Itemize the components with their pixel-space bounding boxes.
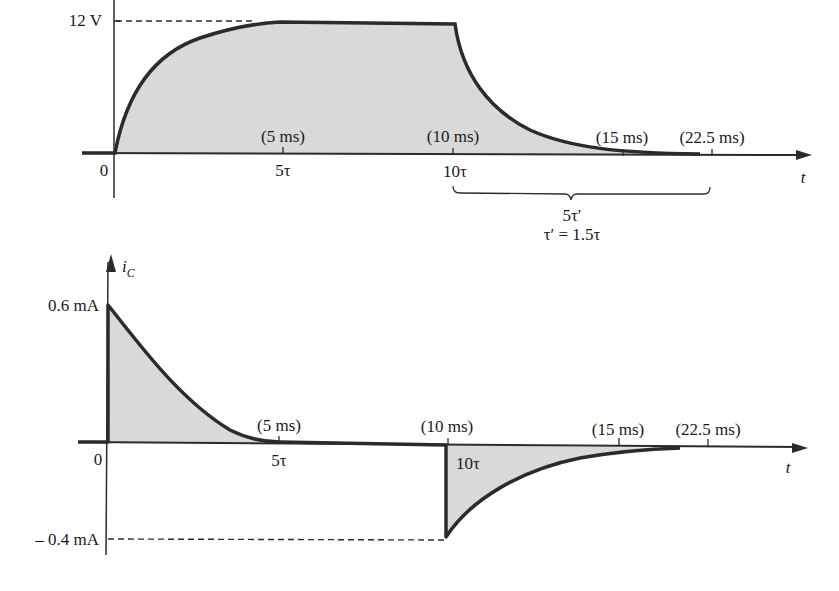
current-tick-22-5ms: (22.5 ms) [675, 420, 740, 439]
voltage-t-axis-label: t [801, 168, 807, 187]
voltage-12v-label: 12 V [69, 11, 103, 30]
current-tick-10tau: 10τ [456, 454, 480, 473]
current-min-label: – 0.4 mA [34, 530, 99, 549]
five-tau-prime-label: 5τ′ [562, 206, 581, 225]
voltage-tick-22-5ms: (22.5 ms) [679, 128, 744, 147]
current-neg-dashed-line [108, 539, 444, 540]
voltage-tick-5tau: 5τ [275, 161, 291, 180]
current-negative-fill [446, 445, 680, 535]
current-positive-fill [108, 305, 280, 442]
voltage-tick-10ms: (10 ms) [427, 127, 479, 146]
current-x-axis-arrow [792, 443, 808, 453]
voltage-origin-label: 0 [100, 161, 109, 180]
voltage-x-axis-arrow [796, 150, 812, 160]
current-tick-10ms: (10 ms) [421, 417, 473, 436]
current-plot: iC 0.6 mA – 0.4 mA 0 (5 ms) (10 ms) (15 … [34, 254, 808, 555]
voltage-tick-10tau: 10τ [443, 162, 467, 181]
charging-discharging-plots: 12 V 0 (5 ms) (10 ms) (15 ms) (22.5 ms) … [0, 0, 839, 591]
current-t-axis-label: t [786, 458, 792, 477]
current-max-label: 0.6 mA [48, 296, 100, 315]
voltage-tick-5ms: (5 ms) [261, 127, 305, 146]
tau-prime-equation: τ′ = 1.5τ [544, 225, 601, 244]
current-axis-label: iC [122, 257, 136, 280]
voltage-tick-15ms: (15 ms) [596, 128, 648, 147]
current-tick-5ms: (5 ms) [257, 416, 301, 435]
voltage-plot: 12 V 0 (5 ms) (10 ms) (15 ms) (22.5 ms) … [69, 0, 812, 244]
current-origin-label: 0 [94, 450, 103, 469]
current-tick-5tau: 5τ [271, 451, 287, 470]
five-tau-prime-brace [453, 186, 710, 200]
current-tick-15ms: (15 ms) [592, 420, 644, 439]
